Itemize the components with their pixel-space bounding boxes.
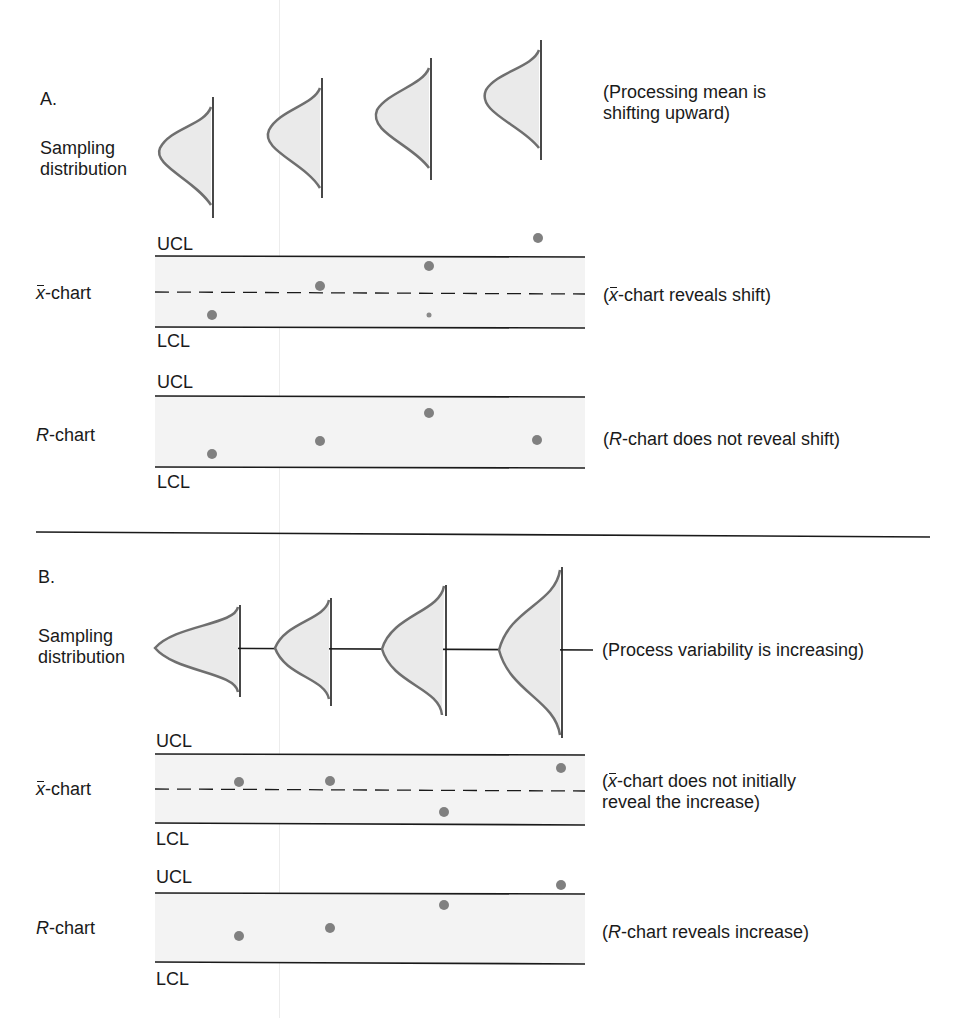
panel-b-distributions [155,567,593,738]
sampling-distribution-label-b: Sampling distribution [38,626,125,668]
r-chart-label: R-chart [36,425,95,446]
ucl-label: UCL [156,867,192,888]
label-line: distribution [40,159,127,180]
xbar-chart-note-a: (x-chart reveals shift) [603,285,771,306]
label-line: Sampling [40,138,127,159]
ucl-label: UCL [157,372,193,393]
panel-b-xbar-chart [155,754,585,825]
panel-a-xbar-chart [155,233,585,328]
data-point [424,261,434,271]
sampling-distribution-b2 [275,598,331,706]
lcl-label: LCL [156,969,189,990]
r-chart-note-b: (R-chart reveals increase) [602,922,809,943]
data-point [234,931,244,941]
panel-a-label: A. [40,89,57,110]
ucl-line [155,893,585,894]
panel-divider [36,532,930,537]
data-point [234,777,244,787]
data-point [556,880,566,890]
data-point [427,313,432,318]
xbar-symbol: x [609,285,618,305]
xbar-symbol: x [36,283,45,303]
note-line: shifting upward) [603,103,766,124]
ucl-line [155,396,585,397]
panel-a-r-chart [155,396,585,468]
data-point [556,763,566,773]
sampling-distribution-b4 [499,567,562,738]
sampling-distribution-b3 [382,585,446,716]
ucl-line [155,256,585,257]
data-point [315,281,325,291]
panel-b-note: (Process variability is increasing) [602,640,864,661]
r-chart-label: R-chart [36,918,95,939]
lcl-line [155,327,585,328]
lcl-label: LCL [157,472,190,493]
chart-name: -chart [45,779,91,799]
data-point [533,233,543,243]
note-line: reveal the increase) [602,792,796,813]
data-point [532,435,542,445]
panel-b-label: B. [38,567,55,588]
ucl-label: UCL [157,234,193,255]
xbar-symbol: x [608,771,617,791]
xbar-chart-label: x-chart [36,283,91,304]
data-point [315,436,325,446]
control-chart-figure [0,0,963,1018]
data-point [207,449,217,459]
sampling-distribution-a4 [485,40,541,160]
sampling-distribution-a1 [159,97,213,218]
panel-a-distributions [159,40,541,218]
label-line: Sampling [38,626,125,647]
ucl-label: UCL [156,731,192,752]
xbar-symbol: x [36,779,45,799]
data-point [439,900,449,910]
lcl-line [155,467,585,468]
data-point [439,807,449,817]
sampling-distribution-b1 [155,605,240,697]
xbar-chart-note-b: (x-chart does not initially reveal the i… [602,771,796,813]
data-point [424,408,434,418]
sampling-distribution-label-a: Sampling distribution [40,138,127,180]
panel-b-r-chart [155,880,585,964]
lcl-label: LCL [156,829,189,850]
note-line: (Processing mean is [603,82,766,103]
data-point [325,923,335,933]
data-point [207,310,217,320]
r-chart-note-a: (R-chart does not reveal shift) [603,429,840,450]
sampling-distribution-a3 [376,58,431,180]
lcl-label: LCL [157,331,190,352]
sampling-distribution-a2 [268,78,322,198]
ucl-line [155,754,585,755]
panel-a-note: (Processing mean is shifting upward) [603,82,766,124]
chart-name: -chart [45,283,91,303]
data-point [325,776,335,786]
label-line: distribution [38,647,125,668]
xbar-chart-label: x-chart [36,779,91,800]
